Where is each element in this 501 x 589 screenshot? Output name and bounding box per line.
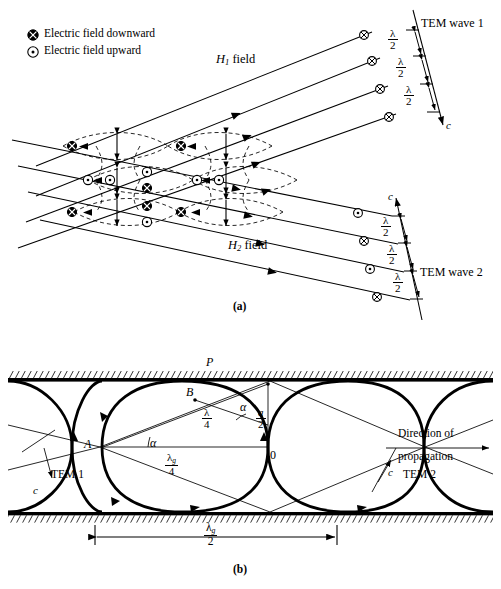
h2-ray-markers — [354, 209, 382, 302]
lambda-half-w2-2: λ2 — [387, 243, 397, 266]
point-b-label: B — [186, 385, 193, 400]
tem-2-label: TEM 2 — [403, 468, 436, 480]
field-loop-direction-arrows — [70, 412, 367, 512]
lambda-half-w1-3: λ2 — [404, 84, 414, 107]
lambda-half-w2-1: λ2 — [381, 215, 391, 238]
waveguide-bottom-wall — [8, 512, 493, 523]
h1-field-word: field — [232, 52, 255, 66]
legend-label-upward: Electric field upward — [44, 44, 141, 56]
guide-half-label: λg2 — [204, 522, 217, 548]
speed-label-tem1: c — [33, 484, 38, 496]
tem-wave-2-label: TEM wave 2 — [420, 265, 483, 280]
h2-symbol: H — [228, 238, 237, 252]
tem-wave-1-label: TEM wave 1 — [421, 16, 484, 31]
legend-symbol-field-upward — [28, 47, 38, 57]
h1-ray-arrows — [231, 109, 272, 195]
point-a-label: A — [84, 437, 91, 452]
guide-half-sub: g — [212, 526, 216, 535]
lambda-den: 2 — [388, 40, 398, 51]
guide-quarter-label: λg4 — [165, 452, 178, 477]
caption-a: (a) — [233, 300, 246, 312]
tem-1-label: TEM 1 — [51, 468, 84, 480]
quarter-lambda-den: 4 — [202, 419, 212, 430]
angle-alpha-b: α — [240, 400, 246, 415]
h1-field-label: H1 field — [216, 52, 255, 67]
caption-b: (b) — [233, 563, 247, 575]
h2-subscript: 2 — [237, 243, 241, 253]
h2-field-label: H2 field — [228, 238, 267, 253]
lambda-half-w1-2: λ2 — [396, 56, 406, 79]
half-a-label: a2 — [256, 407, 266, 430]
quarter-lambda-label: λ4 — [202, 407, 212, 430]
waveguide-top-wall — [8, 371, 493, 382]
lambda-half-w2-3: λ2 — [393, 271, 403, 294]
field-loops-b — [8, 381, 493, 512]
point-p-label: P — [206, 355, 213, 370]
legend-symbol-field-downward — [28, 30, 38, 40]
h1-symbol: H — [216, 52, 225, 66]
direction-line-1: Direction of — [398, 427, 454, 439]
speed-label-wave2: c — [388, 190, 393, 202]
guide-half-den: 2 — [204, 536, 217, 548]
guide-quarter-sub: g — [172, 456, 176, 465]
angle-alpha-a: α — [150, 436, 156, 451]
figure-waveguide-tem — [0, 0, 501, 589]
h2-ray-family — [12, 140, 410, 300]
speed-label-wave1: c — [446, 119, 451, 131]
legend-label-downward: Electric field downward — [44, 27, 155, 39]
h1-subscript: 1 — [225, 57, 229, 67]
lambda-half-w1-1: λ2 — [388, 28, 398, 51]
speed-label-tem2: c — [388, 466, 393, 478]
point-o-label: 0 — [270, 448, 276, 463]
tem-wave-2-front — [392, 198, 423, 320]
direction-line-2: propagation — [398, 450, 453, 462]
guide-quarter-den: 4 — [165, 466, 178, 477]
half-a-den: 2 — [256, 419, 266, 430]
h2-field-word: field — [244, 238, 267, 252]
